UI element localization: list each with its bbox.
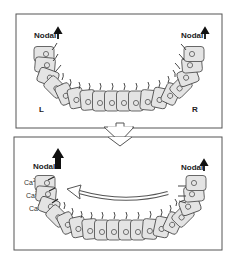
panel-after: Nodal Nodal Ca2+ Ca2+ Ca2+ <box>14 137 222 250</box>
leftward-flow-arrow-icon <box>67 185 168 199</box>
nodal-label-left: Nodal <box>33 162 55 171</box>
panel-before: Nodal Nodal <box>16 14 222 128</box>
nodal-label-right: Nodal <box>181 163 203 172</box>
nodal-label-left: Nodal <box>34 31 56 40</box>
nodal-flow-diagram: Nodal Nodal <box>0 0 236 259</box>
left-side-label: L <box>39 105 44 114</box>
right-side-label: R <box>192 105 198 114</box>
nodal-label-right: Nodal <box>181 31 203 40</box>
node-cells-arc <box>35 176 206 241</box>
